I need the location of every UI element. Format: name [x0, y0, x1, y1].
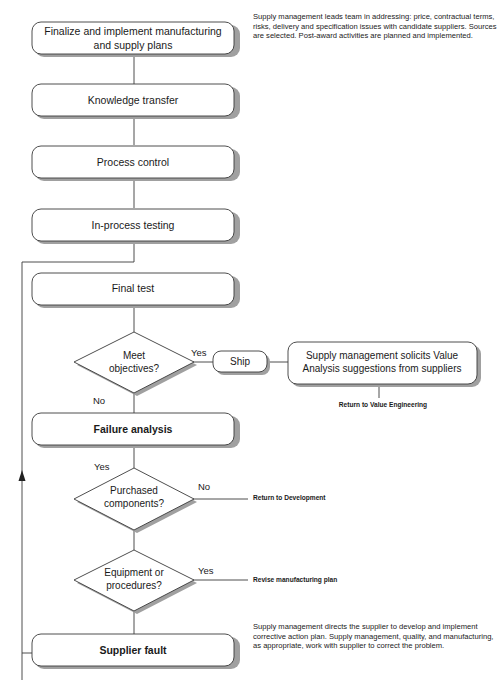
meet-yes-label: Yes	[191, 347, 207, 358]
step-failure-analysis[interactable]: Failure analysis	[32, 413, 240, 448]
step-failure-analysis-label: Failure analysis	[94, 423, 173, 435]
decision-meet-label-2: objectives?	[109, 363, 159, 374]
step-finalize-label-1: Finalize and implement manufacturing	[44, 25, 222, 37]
ship-box[interactable]: Ship	[213, 351, 270, 375]
purchased-yes-label: Yes	[94, 461, 110, 472]
value-analysis-label-1: Supply management solicits Value	[306, 350, 459, 361]
value-analysis-label-2: Analysis suggestions from suppliers	[303, 363, 462, 374]
decision-equipment-label-2: procedures?	[106, 580, 162, 591]
return-value-engineering: Return to Value Engineering	[339, 401, 427, 409]
value-analysis-box[interactable]: Supply management solicits Value Analysi…	[288, 342, 481, 387]
decision-meet-objectives[interactable]: Meet objectives?	[74, 332, 197, 396]
step-process-control-label: Process control	[97, 156, 169, 168]
step-supplier-fault-label: Supplier fault	[99, 644, 167, 656]
decision-purchased-components[interactable]: Purchased components?	[74, 468, 197, 533]
step-in-process-testing-label: In-process testing	[92, 219, 175, 231]
purchased-no-label: No	[198, 481, 210, 492]
step-finalize-label-2: and supply plans	[94, 39, 173, 51]
decision-meet-label-1: Meet	[123, 350, 145, 361]
step-knowledge-label: Knowledge transfer	[88, 94, 179, 106]
decision-purchased-label-2: components?	[104, 498, 164, 509]
step-in-process-testing[interactable]: In-process testing	[32, 209, 240, 244]
step-final-test[interactable]: Final test	[32, 273, 240, 308]
note-supply-management-bottom: Supply management directs the supplier t…	[253, 622, 498, 651]
decision-equipment-procedures[interactable]: Equipment or procedures?	[74, 550, 197, 614]
decision-purchased-label-1: Purchased	[110, 485, 158, 496]
note-supply-management-top: Supply management leads team in addressi…	[253, 12, 498, 41]
step-process-control[interactable]: Process control	[32, 146, 240, 181]
equipment-yes-label: Yes	[198, 565, 214, 576]
decision-equipment-label-1: Equipment or	[104, 567, 164, 578]
ship-label: Ship	[230, 356, 250, 367]
step-knowledge-transfer[interactable]: Knowledge transfer	[32, 84, 240, 119]
step-finalize[interactable]: Finalize and implement manufacturing and…	[32, 22, 240, 57]
return-development: Return to Development	[253, 494, 326, 502]
loop-arrow-icon	[19, 470, 26, 481]
step-final-test-label: Final test	[112, 282, 155, 294]
flowchart: Finalize and implement manufacturing and…	[0, 0, 500, 689]
meet-no-label: No	[93, 395, 105, 406]
step-supplier-fault[interactable]: Supplier fault	[32, 634, 240, 669]
revise-manufacturing-plan: Revise manufacturing plan	[253, 576, 337, 584]
